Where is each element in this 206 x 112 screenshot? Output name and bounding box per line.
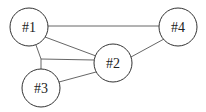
edge-n4-n2 [131,39,164,57]
node-label: #4 [171,20,185,35]
nodes-group: #1#2#3#4 [10,8,197,107]
edge-n3-n2 [59,72,96,82]
node-label: #3 [34,81,48,96]
edge-n1-j1 [36,45,41,59]
diagram-svg: #1#2#3#4 [0,0,206,112]
network-diagram: #1#2#3#4 [0,0,206,112]
node-4: #4 [159,8,197,46]
edge-j1-n2 [41,59,94,60]
node-label: #1 [22,20,36,35]
edge-n1-n2 [45,37,96,56]
node-label: #2 [106,56,120,71]
node-1: #1 [10,8,48,46]
node-3: #3 [22,69,60,107]
node-2: #2 [94,44,132,82]
